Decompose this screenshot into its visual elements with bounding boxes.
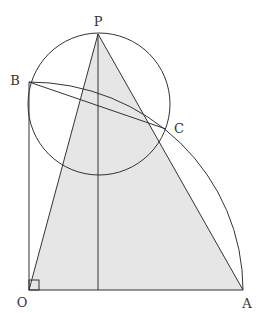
label-c: C (174, 122, 184, 135)
diagram-figure (0, 0, 270, 319)
label-o: O (17, 296, 28, 309)
geometry-diagram: P B C O A (0, 0, 270, 319)
label-p: P (94, 15, 103, 28)
label-b: B (10, 74, 20, 87)
shaded-triangle-poa (29, 34, 243, 290)
label-a: A (242, 297, 251, 310)
